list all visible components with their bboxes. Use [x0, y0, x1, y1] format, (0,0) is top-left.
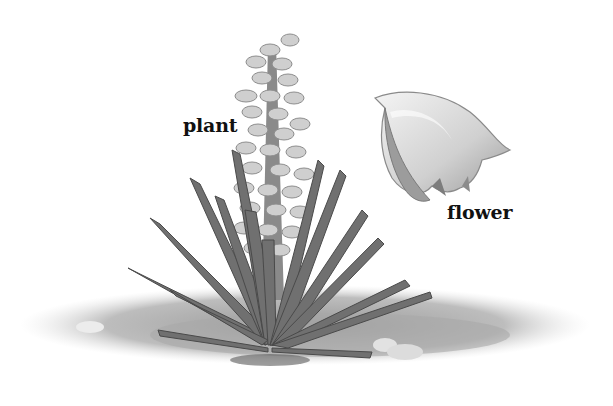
rock-right-2	[387, 344, 423, 360]
flower-illustration	[375, 92, 510, 201]
flower-label: flower	[447, 203, 512, 222]
plant-label: plant	[183, 116, 237, 135]
rock-left	[76, 321, 104, 333]
yucca-illustration	[0, 0, 613, 406]
